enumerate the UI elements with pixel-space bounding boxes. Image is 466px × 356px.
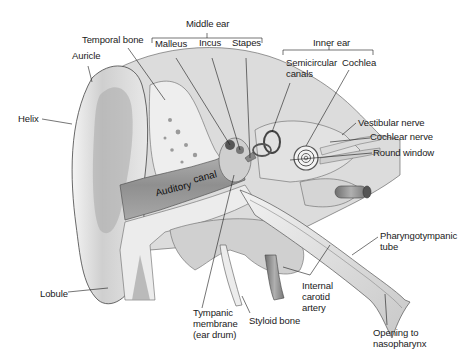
- ear-diagram: Middle ear Temporal bone Malleus Incus S…: [0, 0, 466, 356]
- label-semicircular-canals: Semicircular canals: [286, 57, 337, 79]
- label-cochlea: Cochlea: [342, 57, 376, 68]
- label-internal-carotid-artery: Internal carotid artery: [302, 280, 333, 313]
- label-incus: Incus: [199, 37, 221, 48]
- label-pharyngotympanic-tube: Pharyngotympanic tube: [380, 230, 457, 252]
- label-round-window: Round window: [373, 147, 434, 158]
- horizontal-artery-segment: [335, 186, 367, 198]
- label-temporal-bone: Temporal bone: [82, 34, 144, 45]
- styloid-bone-shape: [220, 245, 242, 306]
- label-cochlear-nerve: Cochlear nerve: [370, 131, 433, 142]
- label-malleus: Malleus: [155, 38, 187, 49]
- ear-illustration: [0, 0, 466, 356]
- label-stapes: Stapes: [232, 37, 261, 48]
- label-lobule: Lobule: [40, 288, 68, 299]
- label-inner-ear: Inner ear: [313, 37, 350, 48]
- label-helix: Helix: [18, 113, 39, 124]
- label-middle-ear: Middle ear: [186, 18, 229, 29]
- label-styloid-bone: Styloid bone: [249, 315, 300, 326]
- label-vestibular-nerve: Vestibular nerve: [358, 117, 425, 128]
- label-opening-to-nasopharynx: Opening to nasopharynx: [373, 327, 426, 349]
- label-auricle: Auricle: [72, 50, 100, 61]
- artery-opening: [363, 186, 371, 198]
- label-tympanic-membrane: Tympanic membrane (ear drum): [193, 307, 238, 340]
